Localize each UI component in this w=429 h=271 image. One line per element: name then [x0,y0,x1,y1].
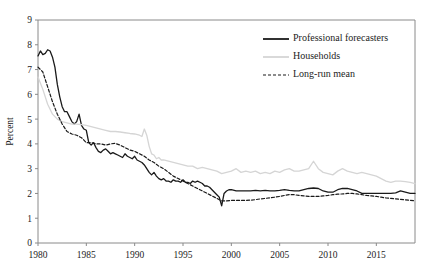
x-tick-label: 2000 [222,250,241,260]
legend-label-0: Professional forecasters [293,32,388,43]
x-tick-label: 2010 [319,250,338,260]
series-group [38,50,415,206]
y-tick-label: 8 [27,40,32,50]
x-tick-label: 1990 [125,250,144,260]
y-axis-group: 0123456789 Percent [5,15,38,248]
y-tick-label: 3 [27,164,32,174]
y-tick-label: 0 [27,238,32,248]
chart-legend: Professional forecastersHouseholdsLong-r… [263,32,388,79]
y-axis-title: Percent [5,117,15,146]
x-tick-group: 19801985199019952000200520102015 [29,243,387,260]
y-tick-label: 6 [27,90,32,100]
legend-label-1: Households [293,50,340,61]
y-tick-label: 5 [27,115,32,125]
y-tick-label: 1 [27,214,32,224]
chart-svg: 0123456789 Percent 198019851990199520002… [0,0,429,271]
y-tick-label: 4 [27,139,32,149]
x-tick-label: 2015 [367,250,386,260]
series-line-1 [38,77,415,184]
x-axis-group: 19801985199019952000200520102015 [29,243,416,260]
x-tick-label: 2005 [270,250,289,260]
inflation-expectations-chart: 0123456789 Percent 198019851990199520002… [0,0,429,271]
series-line-2 [38,67,415,201]
x-tick-label: 1995 [174,250,193,260]
y-tick-label: 7 [27,65,32,75]
x-tick-label: 1980 [29,250,48,260]
y-tick-group: 0123456789 [27,15,38,248]
y-tick-label: 2 [27,189,32,199]
x-tick-label: 1985 [77,250,96,260]
y-tick-label: 9 [27,15,32,25]
legend-label-2: Long-run mean [293,68,355,79]
plot-frame [38,20,415,243]
